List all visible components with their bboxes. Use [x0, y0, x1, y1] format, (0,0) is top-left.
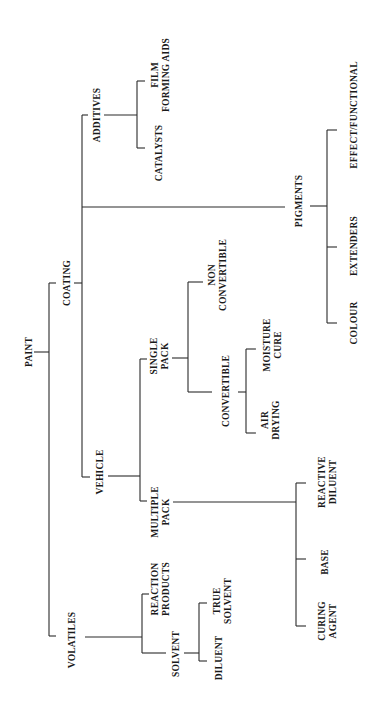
node-base: BASE — [320, 549, 330, 575]
single-line: SINGLE — [149, 337, 159, 374]
node-vehicle: VEHICLE — [95, 449, 105, 494]
node-film-forming-aids: FILM FORMING AIDS — [150, 38, 171, 112]
non-line: NON — [207, 264, 217, 286]
node-volatiles: VOLATILES — [67, 612, 77, 668]
pack-line: PACK — [160, 342, 170, 369]
node-additives: ADDITIVES — [92, 88, 102, 143]
node-pigments: PIGMENTS — [294, 175, 304, 227]
node-solvent: SOLVENT — [171, 631, 181, 677]
connector-lines — [34, 81, 337, 661]
node-diluent: DILUENT — [214, 635, 224, 680]
node-convertible: CONVERTIBLE — [221, 355, 231, 427]
node-extenders: EXTENDERS — [349, 216, 359, 276]
true-line: TRUE — [212, 587, 222, 614]
node-reactive-diluent: REACTIVE DILUENT — [317, 456, 338, 508]
reactive-line: REACTIVE — [317, 456, 327, 508]
node-catalysts: CATALYSTS — [154, 125, 164, 182]
moisture-line: MOISTURE — [262, 318, 272, 371]
pack-line-2: PACK — [161, 498, 171, 525]
node-effect-functional: EFFECT/FUNCTIONAL — [349, 61, 359, 168]
agent-line: AGENT — [328, 603, 338, 638]
reaction-line: REACTION — [150, 563, 160, 616]
node-true-solvent: TRUE SOLVENT — [212, 578, 233, 624]
curing-line: CURING — [317, 601, 327, 641]
node-curing-agent: CURING AGENT — [317, 601, 338, 641]
node-paint: PAINT — [24, 337, 34, 367]
node-colour: COLOUR — [349, 302, 359, 345]
forming-aids-line: FORMING AIDS — [161, 38, 171, 112]
node-coating: COATING — [62, 260, 72, 306]
film-line: FILM — [150, 62, 160, 88]
cure-line: CURE — [273, 331, 283, 359]
multiple-line: MULTIPLE — [150, 486, 160, 537]
node-air-drying: AIR DRYING — [260, 400, 281, 440]
node-moisture-cure: MOISTURE CURE — [262, 318, 283, 371]
diluent-line: DILUENT — [328, 459, 338, 504]
convertible-line: CONVERTIBLE — [218, 239, 228, 311]
node-labels: PAINT COATING VOLATILES ADDITIVES FILM F… — [24, 38, 359, 680]
node-non-convertible: NON CONVERTIBLE — [207, 239, 228, 311]
paint-classification-tree: PAINT COATING VOLATILES ADDITIVES FILM F… — [0, 0, 375, 716]
air-line: AIR — [260, 411, 270, 429]
node-multiple-pack: MULTIPLE PACK — [150, 486, 171, 537]
node-single-pack: SINGLE PACK — [149, 337, 170, 374]
products-line: PRODUCTS — [161, 562, 171, 616]
node-reaction-products: REACTION PRODUCTS — [150, 562, 171, 616]
solvent-line: SOLVENT — [223, 578, 233, 624]
drying-line: DRYING — [271, 400, 281, 440]
